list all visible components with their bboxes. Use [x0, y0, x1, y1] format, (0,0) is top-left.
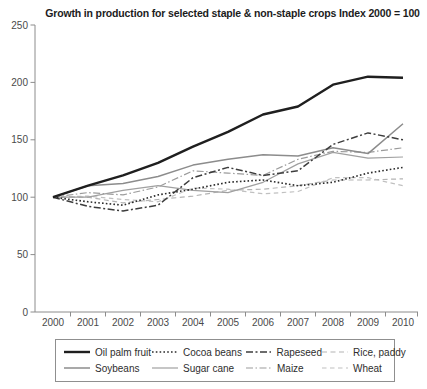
legend-item-wheat: Wheat: [322, 363, 386, 374]
x-tick-label: 2010: [392, 317, 415, 328]
y-tick-label: 100: [11, 192, 28, 203]
legend-item-cocoa-beans: Cocoa beans: [152, 347, 246, 358]
x-tick-label: 2003: [147, 317, 170, 328]
legend-item-oil-palm-fruit: Oil palm fruit: [64, 347, 152, 358]
legend-item-maize: Maize: [246, 363, 322, 374]
legend-label-maize: Maize: [277, 363, 304, 374]
series-line-oil-palm-fruit: [53, 77, 403, 198]
series-line-soybeans: [53, 124, 403, 198]
legend-item-rice-paddy: Rice, paddy: [322, 347, 406, 358]
legend-line-sample-oil-palm-fruit: [64, 347, 90, 357]
plot-area: 0501001502002502000200120022003200420052…: [0, 19, 427, 337]
legend-line-sample-rapeseed: [246, 347, 271, 357]
legend-label-rapeseed: Rapeseed: [276, 347, 322, 358]
legend-row-2: SoybeansSugar caneMaizeWheat: [64, 360, 386, 376]
chart-title: Growth in production for selected staple…: [42, 7, 423, 19]
legend-label-wheat: Wheat: [353, 363, 382, 374]
series-line-rice-paddy: [53, 179, 403, 203]
legend-line-sample-soybeans: [64, 363, 90, 373]
x-tick-label: 2006: [252, 317, 275, 328]
chart-page: Growth in production for selected staple…: [0, 0, 427, 389]
legend-line-sample-rice-paddy: [322, 347, 348, 357]
legend-item-rapeseed: Rapeseed: [246, 347, 322, 358]
x-tick-label: 2000: [42, 317, 65, 328]
x-tick-label: 2008: [322, 317, 345, 328]
plot-svg: 0501001502002502000200120022003200420052…: [0, 19, 427, 333]
x-tick-label: 2009: [357, 317, 380, 328]
x-tick-label: 2005: [217, 317, 240, 328]
legend-label-rice-paddy: Rice, paddy: [353, 347, 406, 358]
legend-line-sample-sugar-cane: [152, 363, 178, 373]
y-tick-label: 0: [22, 307, 28, 318]
y-tick-label: 200: [11, 77, 28, 88]
x-tick-label: 2001: [77, 317, 100, 328]
legend-label-sugar-cane: Sugar cane: [183, 363, 234, 374]
legend-line-sample-wheat: [322, 363, 348, 373]
legend-label-oil-palm-fruit: Oil palm fruit: [95, 347, 151, 358]
y-tick-label: 150: [11, 134, 28, 145]
y-tick-label: 250: [11, 20, 28, 31]
series-line-rapeseed: [53, 133, 403, 211]
legend-row-1: Oil palm fruitCocoa beansRapeseedRice, p…: [64, 344, 386, 360]
legend-line-sample-cocoa-beans: [152, 347, 178, 357]
legend-item-sugar-cane: Sugar cane: [152, 363, 246, 374]
x-tick-label: 2004: [182, 317, 205, 328]
legend: Oil palm fruitCocoa beansRapeseedRice, p…: [55, 339, 395, 382]
legend-label-soybeans: Soybeans: [95, 363, 139, 374]
x-tick-label: 2002: [112, 317, 135, 328]
y-tick-label: 50: [17, 249, 29, 260]
legend-label-cocoa-beans: Cocoa beans: [183, 347, 242, 358]
x-tick-label: 2007: [287, 317, 310, 328]
legend-item-soybeans: Soybeans: [64, 363, 152, 374]
legend-line-sample-maize: [246, 363, 272, 373]
